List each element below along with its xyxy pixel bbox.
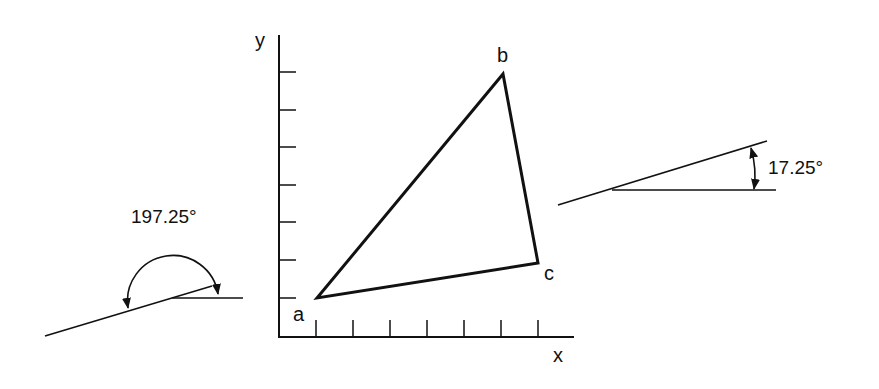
x-axis-label: x — [553, 344, 563, 366]
inclined-line-right — [558, 141, 767, 205]
angle-label-left: 197.25° — [131, 206, 197, 227]
vertex-label-b: b — [497, 44, 508, 66]
vertex-label-a: a — [293, 303, 305, 325]
y-axis-label: y — [255, 29, 265, 51]
y-ticks — [279, 72, 296, 298]
vertex-label-c: c — [544, 262, 554, 284]
angle-label-right: 17.25° — [768, 157, 823, 178]
angle-figure-right: 17.25° — [558, 141, 823, 205]
triangle: a b c — [293, 44, 554, 325]
angle-arc-left — [127, 255, 218, 308]
diagram-canvas: y x a b c 197.25° 17.25° — [0, 0, 879, 389]
angle-figure-left: 197.25° — [45, 206, 243, 336]
triangle-abc — [317, 74, 538, 298]
angle-arc-right — [751, 148, 755, 189]
x-ticks — [316, 320, 538, 337]
